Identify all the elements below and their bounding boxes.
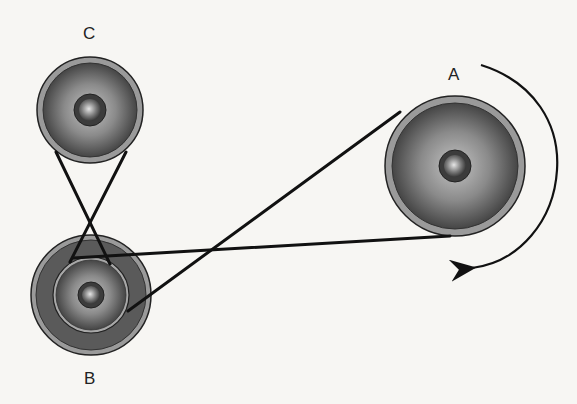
label-pulley-a: A — [448, 66, 459, 83]
pulley-a — [385, 96, 525, 236]
pulley-diagram: C B A — [0, 0, 577, 404]
pulley-c — [37, 57, 143, 163]
label-pulley-b: B — [84, 370, 95, 387]
label-pulley-c: C — [83, 25, 95, 42]
diagram-canvas — [0, 0, 577, 404]
